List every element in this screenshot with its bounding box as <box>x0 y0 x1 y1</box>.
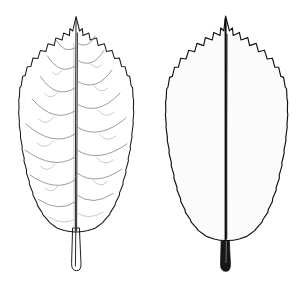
petiole-outline <box>72 228 81 271</box>
leaf-plate-svg <box>0 0 305 285</box>
illustration-plate <box>0 0 305 285</box>
